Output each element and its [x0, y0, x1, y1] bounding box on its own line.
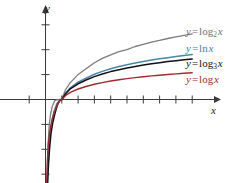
- label-log2-equals: =: [191, 25, 199, 37]
- label-ln-function: ln: [199, 42, 208, 54]
- label-ln-arg: x: [209, 42, 214, 54]
- x-axis-arrow-icon: [214, 96, 221, 103]
- x-axis-label: x: [211, 105, 216, 116]
- curve-label-log-base-10: y=log x: [186, 74, 219, 85]
- label-log3-base: 3: [213, 62, 217, 71]
- logarithm-functions-chart: y=log2 x y=ln x y=log3 x y=log x x y: [0, 0, 245, 183]
- label-log2-base: 2: [213, 30, 217, 39]
- label-log-equals: =: [191, 73, 199, 85]
- label-log-arg: x: [214, 73, 219, 85]
- label-log-function: log: [199, 73, 213, 85]
- curve-label-log-base-2: y=log2 x: [186, 26, 223, 37]
- y-axis-label: y: [45, 3, 50, 14]
- label-log2-function: log: [199, 25, 213, 37]
- curve-log-base-2: [47, 34, 192, 183]
- label-log3-function: log: [199, 57, 213, 69]
- curve-log-base-3: [48, 59, 193, 183]
- label-log2-arg: x: [218, 25, 223, 37]
- curve-series-group: [47, 34, 193, 183]
- label-ln-equals: =: [191, 42, 199, 54]
- label-log3-arg: x: [218, 57, 223, 69]
- curve-label-natural-log: y=ln x: [186, 43, 213, 54]
- label-log3-equals: =: [191, 57, 199, 69]
- curve-label-log-base-3: y=log3 x: [186, 58, 223, 69]
